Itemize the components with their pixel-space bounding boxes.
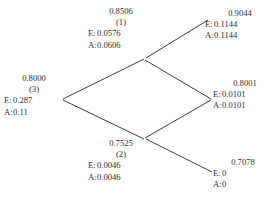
node-top-right-e-row: E:0.1144 (205, 19, 275, 30)
a-label: A: (88, 172, 97, 183)
node-middle-right-a-value: 0.0101 (222, 100, 246, 111)
node-top-right: 0.9044 E:0.1144 A:0.1144 (205, 8, 275, 42)
a-label: A: (213, 100, 222, 111)
node-lower-a-value: 0.0046 (97, 172, 121, 183)
a-label: A: (205, 30, 214, 41)
edge-lower-to-bottomright (146, 139, 212, 172)
node-bottom-right-e-value: 0 (222, 168, 226, 179)
edge-upper-to-middleright (145, 60, 211, 99)
node-upper-a-value: 0.0606 (97, 40, 121, 51)
node-lower-probability: 0.7525 (88, 138, 154, 149)
edge-upper-to-topright (146, 20, 208, 58)
node-top-right-probability: 0.9044 (205, 8, 275, 19)
diagram-canvas: 0.8000 (3) E:0.287 A:0.11 0.8506 (1) E:0… (0, 0, 277, 200)
node-lower: 0.7525 (2) E:0.0046 A:0.0046 (88, 138, 154, 183)
node-bottom-right-a-row: A:0 (213, 179, 273, 190)
node-middle-right-e-value: 0.0101 (222, 89, 246, 100)
node-bottom-right-a-value: 0 (222, 179, 226, 190)
e-label: E: (213, 168, 222, 179)
node-bottom-right-e-row: E:0 (213, 168, 273, 179)
a-label: A: (4, 107, 13, 118)
node-upper-probability: 0.8506 (88, 6, 154, 17)
e-label: E: (4, 95, 13, 106)
node-upper-a-row: A:0.0606 (88, 40, 154, 51)
node-root-e-row: E:0.287 (4, 95, 64, 106)
edge-root-to-upper (63, 59, 144, 99)
node-top-right-a-value: 0.1144 (214, 30, 237, 41)
node-root-e-value: 0.287 (13, 95, 32, 106)
e-label: E: (205, 19, 214, 30)
node-root-a-row: A:0.11 (4, 107, 64, 118)
node-root: 0.8000 (3) E:0.287 A:0.11 (4, 73, 64, 118)
e-label: E: (88, 28, 97, 39)
e-label: E: (213, 89, 222, 100)
node-bottom-right-probability: 0.7078 (213, 157, 273, 168)
node-lower-index: (2) (88, 149, 154, 160)
node-top-right-e-value: 0.1144 (214, 19, 237, 30)
node-lower-e-value: 0.0046 (97, 160, 121, 171)
node-upper: 0.8506 (1) E:0.0576 A:0.0606 (88, 6, 154, 51)
edge-root-to-lower (63, 100, 144, 139)
node-middle-right-a-row: A:0.0101 (213, 100, 277, 111)
e-label: E: (88, 160, 97, 171)
node-top-right-a-row: A:0.1144 (205, 30, 275, 41)
a-label: A: (88, 40, 97, 51)
node-upper-index: (1) (88, 17, 154, 28)
node-lower-e-row: E:0.0046 (88, 160, 154, 171)
node-upper-e-row: E:0.0576 (88, 28, 154, 39)
node-upper-e-value: 0.0576 (97, 28, 121, 39)
node-lower-a-row: A:0.0046 (88, 172, 154, 183)
node-middle-right-e-row: E:0.0101 (213, 89, 277, 100)
edge-lower-to-middleright (145, 100, 211, 138)
node-middle-right-probability: 0.8001 (213, 78, 277, 89)
node-root-a-value: 0.11 (13, 107, 28, 118)
node-root-probability: 0.8000 (4, 73, 64, 84)
node-root-index: (3) (4, 84, 64, 95)
node-bottom-right: 0.7078 E:0 A:0 (213, 157, 273, 191)
a-label: A: (213, 179, 222, 190)
node-middle-right: 0.8001 E:0.0101 A:0.0101 (213, 78, 277, 112)
